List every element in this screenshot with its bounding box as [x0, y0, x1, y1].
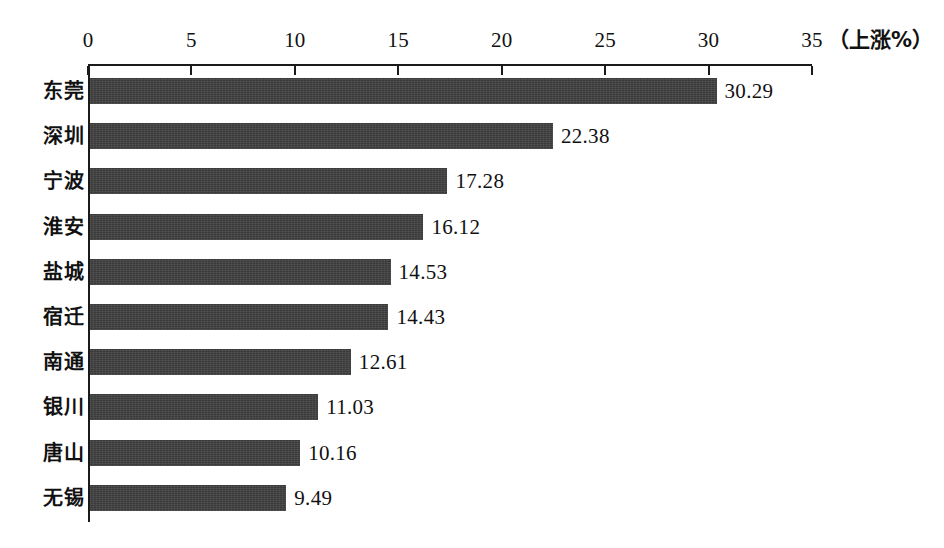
- category-label-宁波: 宁波: [43, 170, 85, 192]
- bar-深圳: [90, 123, 553, 149]
- x-axis-unit-label: （上涨%）: [828, 29, 933, 52]
- bar-row: 宁波17.28: [0, 168, 944, 194]
- bar-row: 盐城14.53: [0, 259, 944, 285]
- category-label-南通: 南通: [43, 351, 85, 373]
- bar-value-label: 16.12: [431, 216, 480, 238]
- bar-chart: 05101520253035 （上涨%） 东莞30.29深圳22.38宁波17.…: [0, 0, 944, 548]
- category-label-无锡: 无锡: [43, 487, 85, 509]
- x-axis-tick-5: [190, 66, 192, 75]
- x-axis-tick-10: [294, 66, 296, 75]
- bar-row: 银川11.03: [0, 394, 944, 420]
- category-label-宿迁: 宿迁: [43, 306, 85, 328]
- category-label-深圳: 深圳: [43, 125, 85, 147]
- x-axis-tick-label: 35: [801, 30, 822, 51]
- category-label-银川: 银川: [43, 396, 85, 418]
- bar-无锡: [90, 485, 286, 511]
- bar-row: 东莞30.29: [0, 78, 944, 104]
- bar-东莞: [90, 78, 717, 104]
- bar-盐城: [90, 259, 391, 285]
- bar-row: 唐山10.16: [0, 440, 944, 466]
- x-axis-line: [88, 64, 812, 66]
- bar-银川: [90, 394, 318, 420]
- category-label-东莞: 东莞: [43, 80, 85, 102]
- bar-value-label: 9.49: [294, 487, 332, 509]
- bar-row: 南通12.61: [0, 349, 944, 375]
- bar-淮安: [90, 214, 423, 240]
- bar-value-label: 14.53: [399, 261, 448, 283]
- x-axis-tick-label: 25: [594, 30, 615, 51]
- bar-value-label: 17.28: [455, 170, 504, 192]
- category-label-唐山: 唐山: [43, 442, 85, 464]
- x-axis-tick-25: [604, 66, 606, 75]
- x-axis-tick-30: [708, 66, 710, 75]
- bar-宁波: [90, 168, 447, 194]
- x-axis-tick-label: 30: [698, 30, 719, 51]
- bar-row: 无锡9.49: [0, 485, 944, 511]
- bar-宿迁: [90, 304, 388, 330]
- bar-value-label: 30.29: [725, 80, 774, 102]
- bar-row: 淮安16.12: [0, 214, 944, 240]
- bar-value-label: 11.03: [326, 396, 374, 418]
- bar-value-label: 12.61: [359, 351, 408, 373]
- x-axis-tick-label: 15: [388, 30, 409, 51]
- bar-row: 深圳22.38: [0, 123, 944, 149]
- x-axis-tick-35: [811, 66, 813, 75]
- x-axis-tick-20: [501, 66, 503, 75]
- plot-area: 05101520253035 （上涨%） 东莞30.29深圳22.38宁波17.…: [0, 0, 944, 548]
- x-axis-tick-label: 10: [284, 30, 305, 51]
- bar-唐山: [90, 440, 300, 466]
- x-axis-tick-label: 20: [491, 30, 512, 51]
- bar-value-label: 14.43: [396, 306, 445, 328]
- bar-value-label: 22.38: [561, 125, 610, 147]
- x-axis-tick-label: 5: [186, 30, 197, 51]
- bar-南通: [90, 349, 351, 375]
- x-axis-tick-label: 0: [83, 30, 94, 51]
- x-axis-tick-15: [397, 66, 399, 75]
- x-axis-tick-0: [87, 66, 89, 75]
- bar-value-label: 10.16: [308, 442, 357, 464]
- category-label-盐城: 盐城: [43, 261, 85, 283]
- bar-row: 宿迁14.43: [0, 304, 944, 330]
- category-label-淮安: 淮安: [43, 216, 85, 238]
